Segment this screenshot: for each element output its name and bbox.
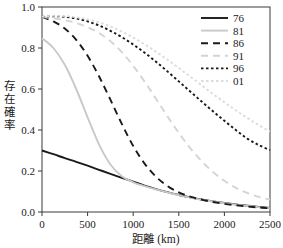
legend-label-76: 76 bbox=[233, 12, 245, 24]
series-line-76 bbox=[42, 151, 270, 208]
y-axis-title-char: 在 bbox=[4, 93, 15, 105]
y-axis-title: 存在確率 bbox=[4, 79, 15, 131]
y-axis-tick-labels: 0.00.20.40.60.81.0 bbox=[21, 1, 35, 218]
legend-label-86: 86 bbox=[233, 37, 245, 49]
x-tick-label: 2000 bbox=[213, 218, 236, 230]
y-axis-title-char: 確 bbox=[4, 105, 15, 118]
y-tick-label: 0.2 bbox=[21, 165, 35, 177]
y-tick-label: 0.0 bbox=[21, 206, 35, 218]
x-tick-label: 500 bbox=[79, 218, 96, 230]
chart-figure: 05001000150020002500 0.00.20.40.60.81.0 … bbox=[0, 0, 283, 248]
x-tick-label: 0 bbox=[39, 218, 45, 230]
line-chart: 05001000150020002500 0.00.20.40.60.81.0 … bbox=[0, 0, 283, 248]
x-tick-label: 1500 bbox=[168, 218, 191, 230]
x-tick-label: 2500 bbox=[259, 218, 282, 230]
y-tick-label: 0.6 bbox=[21, 83, 35, 95]
y-tick-label: 1.0 bbox=[21, 1, 35, 13]
y-axis-title-char: 存 bbox=[4, 79, 15, 92]
x-axis-ticks bbox=[42, 212, 270, 216]
chart-legend: 768186919601 bbox=[201, 12, 245, 87]
y-tick-label: 0.8 bbox=[21, 42, 35, 54]
x-axis-title: 距離 (km) bbox=[132, 232, 179, 246]
y-tick-label: 0.4 bbox=[21, 124, 35, 136]
legend-label-91: 91 bbox=[233, 50, 244, 62]
x-axis-tick-labels: 05001000150020002500 bbox=[39, 218, 281, 230]
legend-label-81: 81 bbox=[233, 25, 244, 37]
x-tick-label: 1000 bbox=[122, 218, 145, 230]
legend-label-96: 96 bbox=[233, 62, 245, 74]
legend-label-01: 01 bbox=[233, 75, 244, 87]
y-axis-title-char: 率 bbox=[4, 118, 15, 131]
y-axis-ticks bbox=[38, 7, 42, 212]
